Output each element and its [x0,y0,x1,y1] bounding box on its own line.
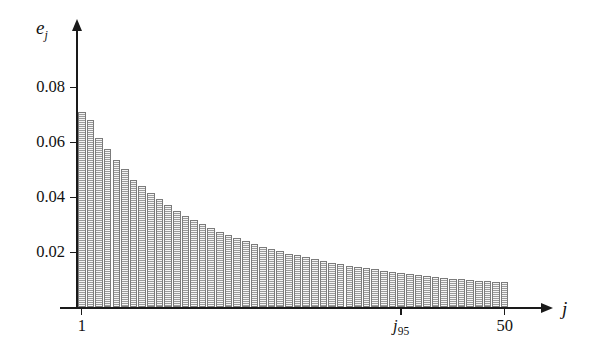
bar [268,249,276,307]
bar [302,257,310,307]
bar [113,160,121,307]
bar [95,138,103,307]
bar [380,271,388,308]
bar [78,112,86,307]
bar [501,282,509,307]
bar [363,268,371,307]
bar [406,274,414,308]
bar [415,275,423,307]
bar [216,232,224,308]
bar [397,273,405,307]
bar [389,272,397,307]
bar [121,169,129,307]
bar [294,255,302,307]
bar [458,279,466,307]
bar [311,259,319,307]
bar [242,241,250,307]
bar [475,281,483,308]
bar [251,244,259,307]
bar [320,261,328,307]
bar [492,282,500,308]
bar [346,266,354,308]
bar [432,277,440,308]
bar [337,264,345,307]
bar [276,251,284,307]
bar [259,247,267,308]
bar [233,238,241,307]
bar [371,269,379,307]
bar [164,205,172,307]
bar-series [0,0,602,349]
bar [104,149,112,307]
bar [87,120,95,307]
bar [199,224,207,307]
bar [466,280,474,308]
bar [440,278,448,308]
bar [130,180,138,308]
chart-figure: ej j 0.020.040.060.08 1j9550 [0,0,602,349]
bar [423,276,431,308]
bar [285,254,293,308]
bar [182,216,190,308]
bar [190,220,198,307]
bar [173,211,181,308]
bar [354,267,362,307]
bar [138,186,146,307]
bar [156,199,164,307]
bar [207,228,215,307]
bar [328,263,336,308]
bar [449,279,457,308]
bar [484,281,492,307]
bar [225,235,233,307]
bar [147,193,155,307]
